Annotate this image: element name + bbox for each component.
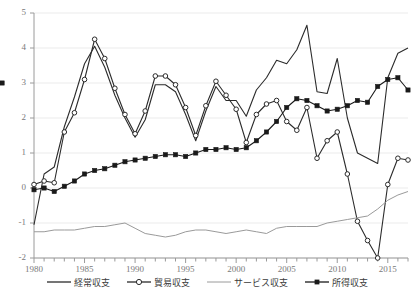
data-point-marker [305, 105, 310, 110]
data-point-marker [234, 107, 239, 112]
chart-legend: 経常収支貿易収支サービス収支所得収支 [0, 272, 415, 292]
y-axis-tick-label: -2 [4, 253, 26, 262]
data-point-marker [325, 138, 330, 143]
data-point-marker [375, 256, 380, 261]
data-point-marker [143, 109, 148, 114]
data-point-marker [92, 37, 97, 42]
data-point-marker [52, 180, 57, 185]
data-point-marker [42, 186, 46, 190]
data-point-marker [244, 140, 249, 145]
data-point-marker [153, 154, 157, 158]
y-axis-tick-label: 0 [4, 183, 26, 192]
data-point-marker [163, 74, 168, 79]
data-point-marker [113, 163, 117, 167]
data-point-marker [335, 107, 339, 111]
data-point-marker [204, 147, 208, 151]
data-point-marker [355, 219, 360, 224]
data-point-marker [315, 104, 319, 108]
data-point-marker [82, 77, 87, 82]
series-line-2 [34, 192, 408, 238]
legend-label: 経常収支 [74, 276, 110, 289]
data-point-marker [365, 238, 370, 243]
data-point-marker [194, 151, 198, 155]
data-point-marker [274, 98, 279, 103]
data-point-marker [305, 98, 309, 102]
data-point-marker [284, 119, 289, 124]
legend-swatch-icon [305, 277, 329, 287]
data-point-marker [376, 84, 380, 88]
data-point-marker [133, 131, 138, 136]
data-point-marker [345, 172, 350, 177]
data-point-marker [396, 156, 401, 161]
legend-swatch-icon [127, 277, 151, 287]
legend-label: 所得収支 [332, 276, 368, 289]
data-point-marker [204, 103, 209, 108]
y-axis-tick-label: 3 [4, 78, 26, 87]
data-point-marker [62, 184, 66, 188]
y-axis-tick-label: 4 [4, 43, 26, 52]
data-point-marker [406, 158, 411, 163]
data-point-marker [123, 112, 128, 117]
data-point-marker [325, 109, 329, 113]
data-point-marker [335, 130, 340, 135]
data-point-marker [355, 98, 359, 102]
chart-plot [0, 0, 415, 295]
data-point-marker [264, 130, 268, 134]
data-point-marker [32, 188, 36, 192]
y-axis-tick-label: -1 [4, 218, 26, 227]
data-point-marker [184, 154, 188, 158]
data-point-marker [82, 172, 86, 176]
data-point-marker [93, 168, 97, 172]
data-point-marker [264, 102, 269, 107]
data-point-marker [224, 146, 228, 150]
data-point-marker [153, 74, 158, 79]
data-point-marker [386, 77, 390, 81]
data-point-marker [173, 82, 178, 87]
data-point-marker [295, 97, 299, 101]
data-point-marker [143, 156, 147, 160]
data-point-marker [113, 86, 118, 91]
data-point-marker [163, 153, 167, 157]
data-point-marker [295, 128, 300, 133]
data-point-marker [385, 182, 390, 187]
data-point-marker [133, 158, 137, 162]
data-point-marker [42, 179, 47, 184]
legend-item-1[interactable]: 貿易収支 [127, 276, 190, 289]
data-point-marker [62, 130, 67, 135]
y-axis-tick-label: 1 [4, 148, 26, 157]
data-point-marker [224, 93, 229, 98]
y-axis-tick-label: 5 [4, 8, 26, 17]
data-point-marker [173, 153, 177, 157]
data-point-marker [102, 56, 107, 61]
legend-item-2[interactable]: サービス収支 [207, 276, 288, 289]
data-point-marker [254, 139, 258, 143]
chart-container: 543210-1-2 19801985199019952000200520102… [0, 0, 415, 295]
data-point-marker [72, 179, 76, 183]
data-point-marker [214, 147, 218, 151]
data-point-marker [103, 167, 107, 171]
data-point-marker [123, 160, 127, 164]
data-point-marker [274, 119, 278, 123]
data-point-marker [32, 182, 37, 187]
data-point-marker [365, 100, 369, 104]
data-point-marker [52, 189, 56, 193]
legend-swatch-icon [47, 277, 71, 287]
data-point-marker [234, 147, 238, 151]
legend-label: 貿易収支 [154, 276, 190, 289]
data-point-marker [244, 146, 248, 150]
data-point-marker [396, 76, 400, 80]
data-point-marker [345, 104, 349, 108]
data-point-marker [285, 105, 289, 109]
legend-swatch-icon [207, 277, 231, 287]
legend-item-3[interactable]: 所得収支 [305, 276, 368, 289]
data-point-marker [193, 133, 198, 138]
legend-label: サービス収支 [234, 276, 288, 289]
y-axis-tick-label: 2 [4, 113, 26, 122]
data-point-marker [315, 156, 320, 161]
data-point-marker [406, 88, 410, 92]
data-point-marker [214, 79, 219, 84]
data-point-marker [183, 105, 188, 110]
data-point-marker [72, 110, 77, 115]
data-point-marker [254, 112, 259, 117]
legend-item-0[interactable]: 経常収支 [47, 276, 110, 289]
